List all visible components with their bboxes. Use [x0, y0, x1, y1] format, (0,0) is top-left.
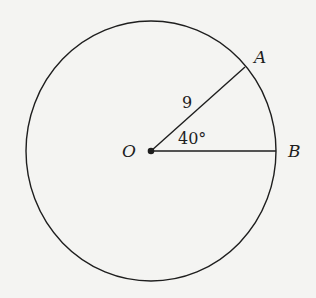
center-point: [148, 148, 155, 155]
point-a-label: A: [254, 49, 266, 66]
diagram-canvas: [0, 0, 316, 298]
angle-label: 40°: [178, 131, 206, 147]
circle-diagram: O A B 9 40°: [0, 0, 316, 298]
radius-label: 9: [182, 95, 192, 111]
point-b-label: B: [288, 143, 301, 160]
center-label: O: [122, 143, 136, 160]
